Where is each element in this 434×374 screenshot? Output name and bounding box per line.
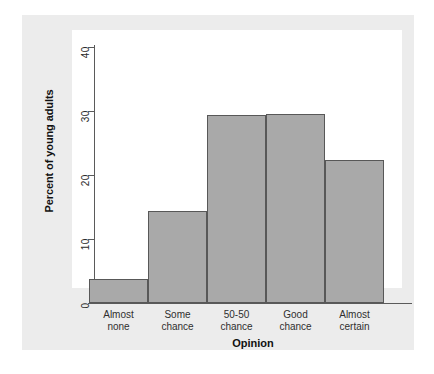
y-tick-label-0: 0	[81, 303, 92, 309]
x-tick-label-line2: chance	[266, 321, 325, 333]
y-tick-label-10: 10	[81, 239, 92, 251]
x-tick-label-line2: certain	[325, 321, 384, 333]
figure-panel: 0 10 20 30 40 Percent of young adults Al…	[22, 15, 414, 350]
x-tick-label-line2: none	[89, 321, 148, 333]
bar-almost-none	[89, 279, 148, 303]
y-tick-label-40: 40	[81, 47, 92, 59]
x-tick-label-almost-certain: Almost certain	[325, 309, 384, 333]
x-tick-label-some-chance: Some chance	[148, 309, 207, 333]
x-axis-title: Opinion	[94, 337, 412, 349]
x-tick-label-line2: chance	[207, 321, 266, 333]
bar-almost-certain	[325, 160, 384, 303]
bar-some-chance	[148, 211, 207, 303]
x-tick-label-line1: Good	[266, 309, 325, 321]
x-tick-label-almost-none: Almost none	[89, 309, 148, 333]
x-tick-label-line1: 50-50	[207, 309, 266, 321]
x-tick-label-good-chance: Good chance	[266, 309, 325, 333]
y-tick-label-20: 20	[81, 175, 92, 187]
y-axis-title: Percent of young adults	[43, 81, 55, 221]
bar-good-chance	[266, 114, 325, 303]
bar-50-50-chance	[207, 115, 266, 303]
x-axis-line	[94, 303, 412, 304]
y-axis-line	[94, 45, 95, 304]
x-tick-label-50-50-chance: 50-50 chance	[207, 309, 266, 333]
y-tick-label-30: 30	[81, 111, 92, 123]
x-tick-label-line1: Some	[148, 309, 207, 321]
x-tick-label-line1: Almost	[89, 309, 148, 321]
x-tick-label-line2: chance	[148, 321, 207, 333]
x-tick-label-line1: Almost	[325, 309, 384, 321]
